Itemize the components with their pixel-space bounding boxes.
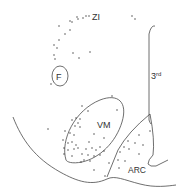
vm-nucleus-outline bbox=[65, 98, 124, 163]
cell-markers bbox=[47, 15, 150, 176]
brain-section-diagram: 3rd ZI F VM ARC bbox=[0, 0, 182, 194]
third-ventricle-label: 3rd bbox=[151, 71, 161, 81]
arc-label: ARC bbox=[128, 165, 146, 175]
vm-label: VM bbox=[97, 120, 111, 130]
zona-incerta-label: ZI bbox=[92, 12, 100, 22]
fornix-label: F bbox=[56, 72, 62, 82]
ventral-contour bbox=[13, 117, 176, 186]
